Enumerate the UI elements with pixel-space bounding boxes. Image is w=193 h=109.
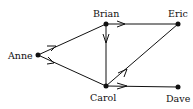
node-dave-dot — [176, 85, 181, 90]
node-label-carol: Carol — [90, 93, 116, 103]
node-label-eric: Eric — [168, 9, 188, 19]
node-label-brian: Brian — [93, 9, 119, 19]
arrow-carol-eric-icon — [118, 69, 127, 77]
node-brian-dot — [104, 22, 109, 27]
node-label-anne: Anne — [8, 51, 33, 61]
node-label-dave: Dave — [166, 94, 190, 104]
node-eric-dot — [176, 22, 181, 27]
edge-carol-dave — [106, 86, 178, 87]
node-anne-dot — [36, 53, 41, 58]
node-carol-dot — [104, 84, 109, 89]
graph-diagram: Anne Brian Eric Carol Dave — [0, 0, 193, 109]
edge-anne-carol — [38, 55, 106, 86]
edge-carol-eric — [106, 24, 178, 86]
edge-anne-brian — [38, 24, 106, 55]
